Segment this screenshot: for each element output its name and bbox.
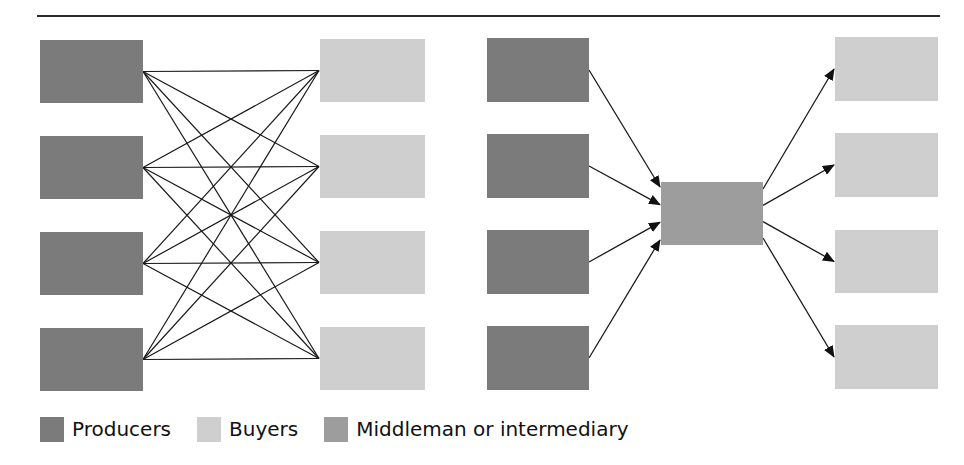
buyer-box: [835, 325, 938, 389]
buyer-box: [320, 39, 425, 102]
legend-label: Middleman or intermediary: [356, 417, 628, 441]
buyer-box: [320, 135, 425, 198]
producer-box: [487, 326, 589, 390]
buyer-box: [835, 37, 938, 101]
connection-line: [143, 263, 319, 360]
buyer-box: [835, 133, 938, 197]
producer-box: [40, 40, 143, 103]
arrow: [589, 70, 660, 187]
legend-item-producers: Producers: [40, 417, 171, 442]
connection-line: [143, 71, 319, 168]
direct-connection-lines: [143, 71, 319, 360]
legend-item-middleman: Middleman or intermediary: [324, 417, 628, 442]
buyer-swatch: [197, 417, 221, 442]
connection-line: [143, 71, 319, 72]
producer-box: [40, 136, 143, 199]
connection-line: [143, 359, 319, 360]
producer-box: [40, 328, 143, 391]
arrow: [589, 222, 660, 262]
buyer-box: [320, 231, 425, 294]
producer-box: [487, 38, 589, 102]
legend-label: Producers: [72, 417, 171, 441]
middleman-box: [661, 182, 763, 245]
producer-box: [40, 232, 143, 295]
arrow: [589, 166, 660, 205]
middleman-swatch: [324, 417, 348, 442]
direct-exchange-boxes: [40, 39, 425, 391]
legend: Producers Buyers Middleman or intermedia…: [40, 414, 655, 444]
intermediated-exchange-boxes: [487, 37, 938, 390]
legend-item-buyers: Buyers: [197, 417, 298, 442]
producer-box: [487, 230, 589, 294]
arrow: [589, 240, 660, 358]
exchange-diagram: [0, 0, 964, 410]
producer-box: [487, 134, 589, 198]
legend-label: Buyers: [229, 417, 298, 441]
buyer-box: [320, 327, 425, 390]
buyer-box: [835, 230, 938, 293]
producer-swatch: [40, 417, 64, 442]
